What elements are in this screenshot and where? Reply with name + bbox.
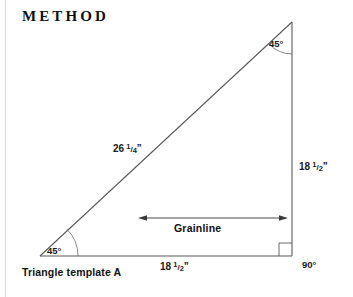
hypotenuse-denominator: 4: [133, 146, 137, 155]
bottom-leg-numerator: 1: [173, 260, 177, 269]
hypotenuse-dimension-label: 26 1/4”: [113, 143, 142, 154]
right-angle-square-marker: [279, 243, 292, 256]
grainline-arrowhead-right: [279, 215, 288, 221]
right-angle-label: 90°: [302, 259, 316, 270]
figure-caption: Triangle template A: [22, 266, 121, 278]
bottom-leg-whole: 18: [160, 261, 171, 272]
grainline-arrowhead-left: [138, 215, 147, 221]
vertical-leg-denominator: 2: [319, 164, 323, 173]
apex-angle-label: 45°: [269, 38, 283, 49]
bottom-leg-fraction: 1/2: [171, 263, 184, 272]
vertical-leg-unit: ”: [323, 161, 328, 172]
hypotenuse-line: [40, 22, 292, 256]
vertical-leg-numerator: 1: [312, 160, 316, 169]
method-diagram-page: METHOD 45° 45° 90° 26 1/4” 18 1/2” 18 1/…: [0, 0, 353, 297]
grainline-label: Grainline: [174, 222, 221, 234]
bottom-leg-unit: ”: [184, 261, 189, 272]
base-left-angle-arc: [67, 229, 78, 256]
bottom-leg-dimension-label: 18 1/2”: [160, 261, 189, 272]
bottom-leg-denominator: 2: [180, 264, 184, 273]
hypotenuse-unit: ”: [137, 143, 142, 154]
hypotenuse-numerator: 1: [126, 142, 130, 151]
vertical-leg-whole: 18: [299, 161, 310, 172]
vertical-leg-fraction: 1/2: [310, 163, 323, 172]
vertical-leg-dimension-label: 18 1/2”: [299, 161, 328, 172]
base-left-angle-label: 45°: [47, 245, 61, 256]
hypotenuse-fraction: 1/4: [124, 145, 137, 154]
hypotenuse-whole: 26: [113, 143, 124, 154]
